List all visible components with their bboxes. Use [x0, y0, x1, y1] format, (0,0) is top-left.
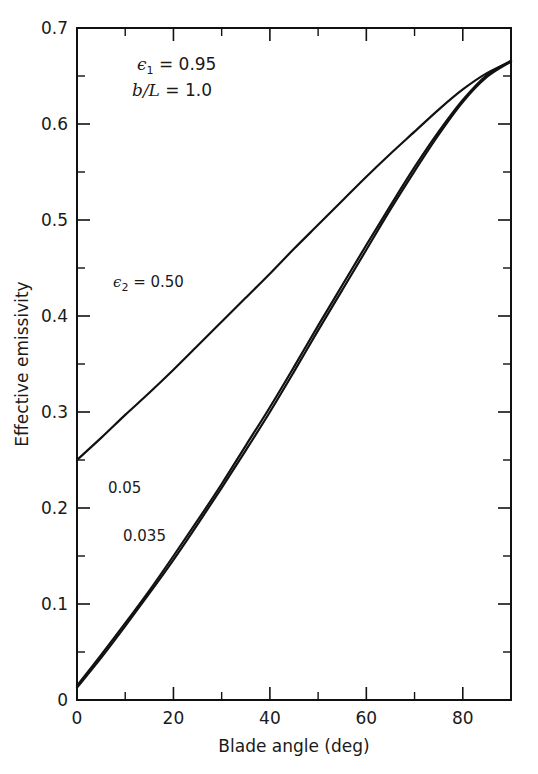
- x-tick-label: 0: [72, 708, 83, 728]
- y-tick-label: 0.5: [41, 210, 68, 230]
- curve-label-epsilon2-050: ϵ2 = 0.50: [113, 273, 184, 294]
- y-axis-tick-labels: 0.10.20.30.40.50.60.7: [41, 18, 68, 614]
- y-axis-minor-ticks: [77, 76, 511, 652]
- y-tick-label: 0.1: [41, 594, 68, 614]
- x-tick-label: 40: [259, 708, 281, 728]
- y-tick-label: 0.2: [41, 498, 68, 518]
- y-axis-title: Effective emissivity: [12, 281, 32, 446]
- curve-label-005: 0.05: [108, 479, 141, 497]
- x-axis-tick-labels: 020406080: [72, 708, 474, 728]
- y-tick-label: 0.3: [41, 402, 68, 422]
- x-tick-label: 20: [163, 708, 185, 728]
- y-axis-origin-label: 0: [57, 690, 68, 710]
- y-tick-label: 0.4: [41, 306, 68, 326]
- x-axis-title: Blade angle (deg): [218, 736, 369, 756]
- y-tick-label: 0.7: [41, 18, 68, 38]
- curve-0-035: [77, 62, 511, 688]
- x-axis-minor-ticks: [125, 28, 414, 700]
- data-curves: [77, 61, 511, 688]
- x-tick-label: 60: [356, 708, 378, 728]
- emissivity-chart: 0.10.20.30.40.50.60.7 020406080 0 ϵ1 = 0…: [0, 0, 538, 774]
- x-tick-label: 80: [452, 708, 474, 728]
- annotation-b-over-L: b/L = 1.0: [132, 80, 212, 100]
- figure-page: 0.10.20.30.40.50.60.7 020406080 0 ϵ1 = 0…: [0, 0, 538, 774]
- x-axis-major-ticks: [77, 28, 463, 700]
- curve-label-0035: 0.035: [123, 527, 166, 545]
- y-axis-major-ticks: [77, 28, 511, 604]
- y-tick-label: 0.6: [41, 114, 68, 134]
- annotation-epsilon1: ϵ1 = 0.95: [137, 54, 216, 77]
